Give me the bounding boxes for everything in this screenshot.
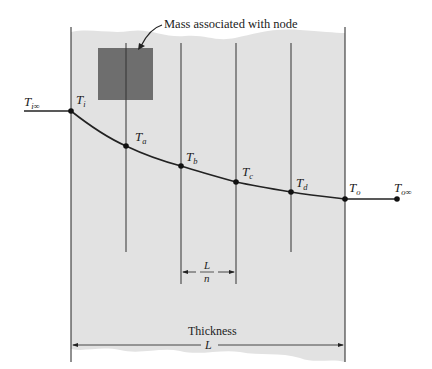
node-dot-c: [233, 179, 239, 185]
label-ambient-right: To∞: [394, 180, 412, 197]
node-dot-d: [288, 189, 294, 195]
label-node-o: To: [349, 180, 360, 197]
wall-node-diagram: Mass associated with node Ti∞ Ti Ta Tb T…: [0, 0, 432, 369]
node-dot-o: [342, 196, 348, 202]
thickness-symbol: L: [204, 338, 212, 352]
spacing-numerator: L: [203, 259, 210, 271]
annotation-label: Mass associated with node: [164, 17, 298, 31]
node-dot-a: [123, 143, 129, 149]
spacing-denominator: n: [204, 272, 210, 284]
label-ambient-left: Ti∞: [24, 94, 40, 111]
ambient-dot-right: [394, 196, 400, 202]
node-dot-i: [68, 108, 74, 114]
node-dot-b: [178, 163, 184, 169]
thickness-label: Thickness: [188, 324, 237, 338]
